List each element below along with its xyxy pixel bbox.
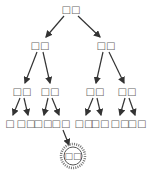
edge bbox=[63, 130, 69, 145]
edge bbox=[24, 98, 28, 115]
edge bbox=[109, 52, 124, 83]
edge bbox=[25, 52, 37, 83]
edge bbox=[86, 98, 93, 115]
edge bbox=[97, 98, 101, 115]
level3-node: □□ bbox=[41, 87, 60, 97]
level2-node-left: □□ bbox=[31, 41, 50, 51]
edge bbox=[13, 98, 20, 115]
leaf-node: □□ bbox=[91, 119, 110, 129]
leaf-node: □□ bbox=[128, 119, 147, 129]
edge bbox=[96, 52, 103, 83]
level2-node-right: □□ bbox=[97, 41, 116, 51]
level3-node: □□ bbox=[86, 87, 105, 97]
edge bbox=[46, 16, 64, 37]
level3-node: □□ bbox=[118, 87, 137, 97]
leaf-node: □□ bbox=[34, 119, 53, 129]
edge bbox=[43, 52, 50, 83]
leaf-node: □ bbox=[5, 119, 14, 129]
edge bbox=[120, 98, 125, 115]
leaf-node: □□ bbox=[52, 119, 71, 129]
root-node: □□ bbox=[62, 5, 81, 15]
edge bbox=[129, 98, 135, 115]
edge bbox=[78, 16, 100, 37]
highlighted-node: □□ bbox=[64, 152, 81, 161]
level3-node: □□ bbox=[13, 87, 32, 97]
edge bbox=[52, 98, 59, 115]
edge bbox=[44, 98, 48, 115]
